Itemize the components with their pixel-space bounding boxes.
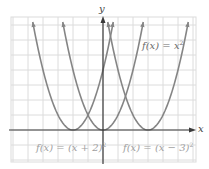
label-f-x-squared: f(x) = x2 [142, 38, 183, 51]
label-exponent: 2 [102, 141, 106, 148]
label-exponent: 2 [180, 39, 184, 46]
label-text: f(x) = x [142, 40, 180, 51]
label-text: f(x) = (x + 2) [36, 142, 102, 153]
graph-figure: y x f(x) = x2 f(x) = (x + 2)2 f(x) = (x … [0, 0, 209, 169]
x-axis-label: x [198, 124, 204, 134]
label-f-x-minus-3-squared: f(x) = (x − 3)2 [123, 140, 193, 153]
label-text: f(x) = (x − 3) [123, 142, 189, 153]
label-exponent: 2 [189, 141, 193, 148]
label-f-x-plus-2-squared: f(x) = (x + 2)2 [36, 140, 106, 153]
y-axis-label: y [99, 4, 105, 14]
